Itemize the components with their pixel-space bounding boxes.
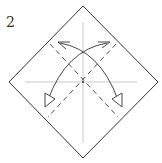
valley-fold-line-1 [50, 44, 118, 117]
origami-diagram [0, 0, 162, 163]
arrowhead-bottom-right-icon [112, 93, 122, 107]
center-point [82, 81, 84, 83]
arrowhead-top-left-icon [58, 42, 70, 49]
valley-fold-line-2 [48, 44, 116, 117]
